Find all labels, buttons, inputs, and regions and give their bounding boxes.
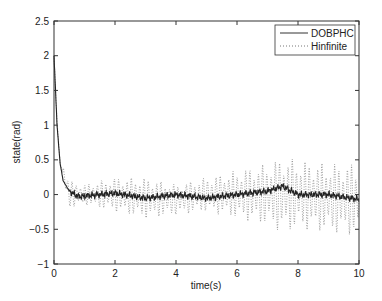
y-tick-label: 2 xyxy=(43,50,49,61)
y-tick-label: −0.5 xyxy=(29,224,49,235)
y-tick-label: 0 xyxy=(43,189,49,200)
y-tick-label: −1 xyxy=(38,259,50,270)
x-tick-label: 2 xyxy=(112,268,118,279)
legend: DOBPHC Hinfinite xyxy=(275,25,355,55)
legend-label-hinfinite: Hinfinite xyxy=(311,41,348,52)
series-hinfinite xyxy=(54,56,359,235)
x-tick-label: 4 xyxy=(173,268,179,279)
x-tick-label: 8 xyxy=(295,268,301,279)
legend-label-dobphc: DOBPHC xyxy=(311,28,354,39)
line-chart: 0246810 −1−0.500.511.522.5 time(s) state… xyxy=(0,0,382,301)
y-tick-label: 1.5 xyxy=(35,85,49,96)
hinfinite-line xyxy=(54,56,359,235)
y-tick-label: 2.5 xyxy=(35,16,49,27)
x-axis: 0246810 xyxy=(51,21,365,279)
plot-frame xyxy=(54,21,359,264)
x-tick-label: 10 xyxy=(353,268,365,279)
x-tick-label: 6 xyxy=(234,268,240,279)
series-dobphc xyxy=(54,56,359,203)
chart-container: 0246810 −1−0.500.511.522.5 time(s) state… xyxy=(0,0,382,301)
y-tick-label: 1 xyxy=(43,120,49,131)
y-axis-label: state(rad) xyxy=(11,121,22,164)
x-axis-label: time(s) xyxy=(191,280,222,291)
x-tick-label: 0 xyxy=(51,268,57,279)
dobphc-line xyxy=(54,56,359,203)
y-tick-label: 0.5 xyxy=(35,154,49,165)
